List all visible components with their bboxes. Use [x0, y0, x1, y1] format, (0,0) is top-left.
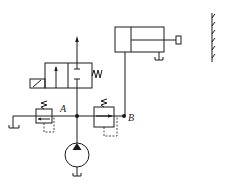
directional-valve	[30, 63, 102, 88]
label-b: B	[128, 112, 134, 123]
arrow-up-icon	[75, 36, 79, 42]
relief-valve-right	[94, 99, 117, 136]
hydraulic-circuit-diagram: A B	[0, 0, 226, 190]
hydraulic-pump	[65, 143, 89, 176]
fixed-wall	[212, 13, 215, 62]
junction-a	[75, 114, 79, 118]
tank-left	[9, 116, 19, 128]
label-a: A	[59, 103, 67, 114]
